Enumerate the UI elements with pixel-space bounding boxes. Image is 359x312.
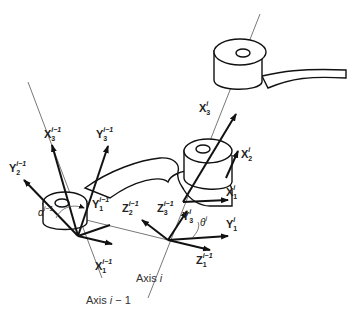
axis-i-minus-1-line bbox=[28, 82, 102, 278]
svg-text:Y3i−1: Y3i−1 bbox=[96, 126, 113, 142]
axis-i-minus-1-label: Axis i − 1 bbox=[86, 294, 131, 306]
svg-text:X3i: X3i bbox=[199, 100, 210, 116]
svg-text:Z2i−1: Z2i−1 bbox=[122, 200, 139, 216]
svg-text:Y1i−1: Y1i−1 bbox=[92, 196, 109, 212]
dh-frames-diagram: X3i−1 Y3i−1 Y2i−1 Y1i−1 X1i−1 Z2i−1 Z3i−… bbox=[0, 0, 359, 312]
svg-text:Z3i−1: Z3i−1 bbox=[157, 200, 174, 216]
svg-text:Y2i−1: Y2i−1 bbox=[9, 160, 26, 176]
svg-text:Z1i−1: Z1i−1 bbox=[196, 252, 213, 268]
y1-i-arrow bbox=[168, 236, 228, 240]
svg-text:X1i: X1i bbox=[226, 184, 237, 200]
joint-i-cylinder bbox=[184, 139, 232, 189]
x1-im1-arrow bbox=[78, 236, 112, 244]
link-i bbox=[214, 39, 346, 89]
svg-text:θi: θi bbox=[200, 215, 207, 228]
svg-text:X2i: X2i bbox=[241, 146, 252, 162]
theta-arc bbox=[192, 222, 199, 238]
axis-i-label: Axis i bbox=[136, 272, 163, 284]
svg-text:X3i−1: X3i−1 bbox=[44, 126, 61, 142]
svg-text:X1i−1: X1i−1 bbox=[95, 258, 112, 274]
svg-text:Y3i: Y3i bbox=[182, 208, 193, 224]
svg-text:Y1i: Y1i bbox=[226, 216, 237, 232]
z1-im1-arrow bbox=[168, 240, 210, 250]
